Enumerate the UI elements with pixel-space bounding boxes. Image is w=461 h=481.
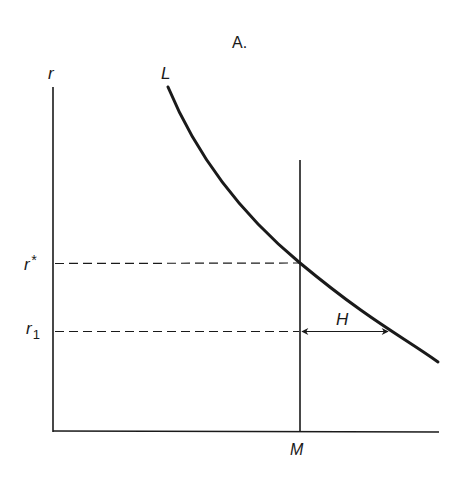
diagram-title: A. <box>232 34 247 51</box>
x-axis <box>53 431 439 432</box>
r-star-label: r* <box>24 252 37 274</box>
gap-label: H <box>336 310 349 329</box>
curve-label: L <box>161 64 170 83</box>
liquidity-demand-curve <box>168 87 438 362</box>
r-star-dashed-line <box>55 263 299 264</box>
r1-label: r1 <box>26 319 40 342</box>
x-axis-label: M <box>290 441 304 458</box>
y-axis-label: r <box>48 64 55 83</box>
money-market-diagram: A. r M r* r1 L H <box>0 0 461 481</box>
